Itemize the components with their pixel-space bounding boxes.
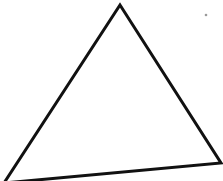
background — [0, 0, 223, 181]
triangle-drawing — [0, 0, 223, 181]
speck-mark — [205, 14, 208, 17]
